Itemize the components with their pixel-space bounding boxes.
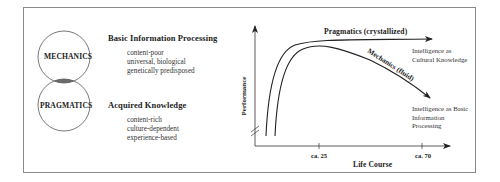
outcome-line: Intelligence as [412, 47, 467, 56]
pragmatics-heading: Acquired Knowledge [108, 100, 186, 110]
x-tick-70: ca. 70 [415, 152, 431, 159]
trait-item: culture-dependent [127, 125, 179, 134]
mechanics-traits: content-poor universal, biological genet… [127, 49, 195, 76]
trait-item: universal, biological [127, 58, 195, 67]
pragmatics-curve-label: Pragmatics (crystallized) [324, 27, 407, 36]
mechanics-label: MECHANICS [44, 52, 92, 61]
outcome-mechanics: Intelligence as Basic Information Proces… [412, 105, 468, 131]
y-axis-label: Performance [240, 77, 248, 116]
trait-item: genetically predisposed [127, 67, 195, 76]
mechanics-heading: Basic Information Processing [108, 33, 217, 43]
x-axis-label: Life Course [353, 160, 392, 169]
mechanics-curve [275, 46, 430, 136]
pragmatics-curve [266, 39, 432, 136]
outcome-pragmatics: Intelligence as Cultural Knowledge [412, 47, 467, 64]
pragmatics-label: PRAGMATICS [40, 101, 92, 110]
outcome-line: Processing [412, 122, 468, 131]
outcome-line: Cultural Knowledge [412, 56, 467, 65]
mechanics-curve-label: Mechanics (fluid) [366, 47, 416, 83]
outcome-line: Intelligence as Basic [412, 105, 468, 114]
x-tick-25: ca. 25 [311, 152, 327, 159]
trait-item: experience-based [127, 134, 179, 143]
trait-item: content-poor [127, 49, 195, 58]
trait-item: content-rich [127, 116, 179, 125]
pragmatics-traits: content-rich culture-dependent experienc… [127, 116, 179, 143]
outcome-line: Information [412, 114, 468, 123]
